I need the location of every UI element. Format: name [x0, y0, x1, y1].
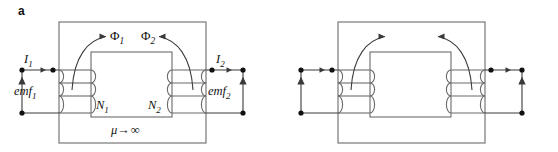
node-dot-left-a	[50, 67, 55, 72]
secondary-winding-b	[446, 70, 485, 113]
current-arrow-right-b	[506, 67, 512, 73]
flux-label-secondary-a: Φ2	[141, 29, 155, 46]
emf-arrow-right-a	[240, 78, 246, 84]
current-label-left-a: I1	[24, 53, 33, 69]
secondary-winding-a	[167, 70, 206, 113]
terminal-dot-right-top-b	[519, 67, 524, 72]
panel-a: a	[0, 0, 279, 152]
node-dot-right-a	[209, 67, 214, 72]
flux-arrow-primary-b	[351, 34, 385, 90]
flux-arrow-primary-a	[72, 34, 106, 90]
panel-b: b	[279, 0, 558, 152]
primary-winding-a	[59, 70, 96, 113]
terminal-dot-right-bottom-b	[519, 110, 524, 115]
turns-label-secondary-a: N2	[148, 99, 161, 115]
figure-root: a	[0, 0, 558, 152]
emf-arrow-right-b	[519, 78, 525, 84]
terminal-dot-left-bottom-b	[298, 110, 303, 115]
current-label-right-a: I2	[216, 53, 225, 69]
flux-arrow-secondary-b	[438, 34, 472, 90]
panel-b-drawing	[279, 0, 558, 152]
node-dot-left-b	[329, 67, 334, 72]
current-arrow-right-a	[227, 67, 233, 73]
terminal-dot-left-bottom-a	[19, 110, 24, 115]
primary-winding-b	[338, 70, 375, 113]
terminal-dot-right-top-a	[240, 67, 245, 72]
current-arrow-left-a	[41, 67, 47, 73]
terminal-dot-left-top-b	[298, 67, 303, 72]
node-dot-right-b	[488, 67, 493, 72]
inner-window-rect-b	[370, 52, 451, 117]
emf-arrow-left-b	[298, 78, 304, 84]
flux-arrow-secondary-a	[159, 34, 193, 90]
emf-label-right-a: emf2	[208, 85, 231, 101]
emf-label-left-a: emf1	[14, 85, 37, 101]
terminal-dot-right-bottom-a	[240, 110, 245, 115]
permeability-label-a: μ→∞	[111, 124, 140, 137]
turns-label-primary-a: N1	[96, 99, 109, 115]
flux-label-primary-a: Φ1	[110, 29, 124, 46]
current-arrow-left-b	[320, 67, 326, 73]
